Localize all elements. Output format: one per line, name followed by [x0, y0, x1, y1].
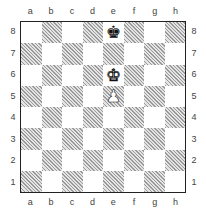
rank-label-5: 5: [6, 86, 20, 108]
square-h7[interactable]: [165, 43, 186, 64]
rank-label-7: 7: [187, 43, 201, 65]
square-h6[interactable]: [165, 65, 186, 86]
square-g4[interactable]: [144, 107, 165, 128]
square-b5[interactable]: [42, 86, 63, 107]
square-c4[interactable]: [62, 107, 83, 128]
square-c5[interactable]: [62, 86, 83, 107]
file-label-h: h: [165, 6, 186, 16]
black-king-icon[interactable]: ♚: [106, 24, 121, 41]
square-f7[interactable]: [124, 43, 145, 64]
file-label-e: e: [103, 6, 124, 16]
square-b8[interactable]: [42, 22, 63, 43]
square-d4[interactable]: [83, 107, 104, 128]
rank-label-8: 8: [187, 21, 201, 43]
rank-label-6: 6: [187, 64, 201, 86]
square-e7[interactable]: [103, 43, 124, 64]
square-h8[interactable]: [165, 22, 186, 43]
square-b3[interactable]: [42, 128, 63, 149]
file-label-c: c: [62, 197, 83, 207]
square-c8[interactable]: [62, 22, 83, 43]
square-h3[interactable]: [165, 128, 186, 149]
chess-board: ♚♚♟: [20, 21, 186, 193]
square-a7[interactable]: [21, 43, 42, 64]
square-c7[interactable]: [62, 43, 83, 64]
square-a5[interactable]: [21, 86, 42, 107]
square-f2[interactable]: [124, 150, 145, 171]
file-label-c: c: [62, 6, 83, 16]
square-g3[interactable]: [144, 128, 165, 149]
white-king-icon[interactable]: ♚: [106, 67, 121, 84]
white-pawn-icon[interactable]: ♟: [106, 88, 121, 105]
square-a2[interactable]: [21, 150, 42, 171]
square-c3[interactable]: [62, 128, 83, 149]
file-label-g: g: [145, 197, 166, 207]
square-e4[interactable]: [103, 107, 124, 128]
rank-label-7: 7: [6, 43, 20, 65]
square-d8[interactable]: [83, 22, 104, 43]
square-a8[interactable]: [21, 22, 42, 43]
square-g5[interactable]: [144, 86, 165, 107]
file-label-f: f: [124, 6, 145, 16]
file-label-a: a: [20, 197, 41, 207]
file-label-d: d: [82, 6, 103, 16]
square-h5[interactable]: [165, 86, 186, 107]
rank-label-4: 4: [187, 107, 201, 129]
rank-label-4: 4: [6, 107, 20, 129]
square-e1[interactable]: [103, 171, 124, 192]
square-d1[interactable]: [83, 171, 104, 192]
square-g6[interactable]: [144, 65, 165, 86]
square-g7[interactable]: [144, 43, 165, 64]
file-label-d: d: [82, 197, 103, 207]
square-e6[interactable]: ♚: [103, 65, 124, 86]
square-d2[interactable]: [83, 150, 104, 171]
square-g8[interactable]: [144, 22, 165, 43]
square-f8[interactable]: [124, 22, 145, 43]
square-f5[interactable]: [124, 86, 145, 107]
square-a3[interactable]: [21, 128, 42, 149]
square-a4[interactable]: [21, 107, 42, 128]
rank-label-1: 1: [6, 172, 20, 194]
square-b4[interactable]: [42, 107, 63, 128]
file-label-a: a: [20, 6, 41, 16]
square-a6[interactable]: [21, 65, 42, 86]
rank-label-2: 2: [187, 150, 201, 172]
square-e2[interactable]: [103, 150, 124, 171]
file-label-g: g: [145, 6, 166, 16]
square-g2[interactable]: [144, 150, 165, 171]
file-label-b: b: [41, 197, 62, 207]
square-h4[interactable]: [165, 107, 186, 128]
square-f1[interactable]: [124, 171, 145, 192]
square-d6[interactable]: [83, 65, 104, 86]
square-b7[interactable]: [42, 43, 63, 64]
file-label-e: e: [103, 197, 124, 207]
square-c1[interactable]: [62, 171, 83, 192]
square-h1[interactable]: [165, 171, 186, 192]
rank-label-6: 6: [6, 64, 20, 86]
square-h2[interactable]: [165, 150, 186, 171]
square-e5[interactable]: ♟: [103, 86, 124, 107]
square-a1[interactable]: [21, 171, 42, 192]
square-d7[interactable]: [83, 43, 104, 64]
square-g1[interactable]: [144, 171, 165, 192]
square-c6[interactable]: [62, 65, 83, 86]
square-d5[interactable]: [83, 86, 104, 107]
square-f4[interactable]: [124, 107, 145, 128]
square-b2[interactable]: [42, 150, 63, 171]
square-e8[interactable]: ♚: [103, 22, 124, 43]
rank-label-3: 3: [187, 129, 201, 151]
rank-label-2: 2: [6, 150, 20, 172]
square-b6[interactable]: [42, 65, 63, 86]
square-f3[interactable]: [124, 128, 145, 149]
rank-label-5: 5: [187, 86, 201, 108]
square-e3[interactable]: [103, 128, 124, 149]
file-label-b: b: [41, 6, 62, 16]
file-label-h: h: [165, 197, 186, 207]
rank-label-8: 8: [6, 21, 20, 43]
square-d3[interactable]: [83, 128, 104, 149]
file-label-f: f: [124, 197, 145, 207]
rank-label-1: 1: [187, 172, 201, 194]
square-c2[interactable]: [62, 150, 83, 171]
square-f6[interactable]: [124, 65, 145, 86]
square-b1[interactable]: [42, 171, 63, 192]
rank-label-3: 3: [6, 129, 20, 151]
